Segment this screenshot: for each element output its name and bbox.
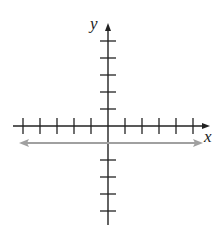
y-axis-arrow-icon [105, 23, 111, 31]
y-axis-label: y [90, 14, 98, 34]
x-axis-label: x [204, 127, 212, 147]
coordinate-plane [0, 0, 218, 235]
